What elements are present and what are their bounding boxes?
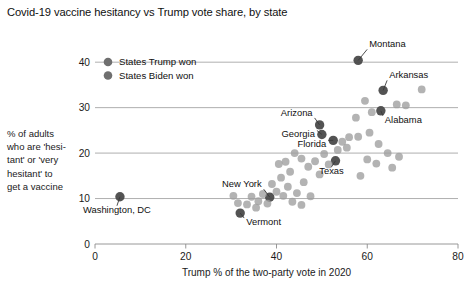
x-axis-title: Trump % of the two-party vote in 2020 — [182, 267, 352, 278]
data-point — [418, 86, 426, 94]
data-point — [345, 133, 353, 141]
legend-dot-biden-won — [104, 71, 113, 80]
y-tick-label: 20 — [79, 148, 91, 159]
legend-label-biden-won: States Biden won — [119, 70, 194, 81]
data-point — [361, 97, 369, 105]
point-label: Arkansas — [389, 69, 428, 80]
y-tick-label: 40 — [79, 57, 91, 68]
data-point — [363, 156, 371, 164]
data-point — [288, 198, 296, 206]
point-label: Texas — [319, 165, 344, 176]
point-label: Montana — [369, 38, 406, 49]
data-point — [368, 108, 376, 116]
data-point — [393, 101, 401, 109]
y-axis-title-line: hesitant' to — [7, 168, 53, 179]
data-point — [343, 144, 351, 152]
data-point — [277, 174, 285, 182]
data-point — [273, 188, 281, 196]
data-point — [384, 149, 392, 157]
point-label: Arizona — [281, 107, 314, 118]
legend-label-trump-won: States Trump won — [119, 56, 196, 67]
y-tick-label: 30 — [79, 102, 91, 113]
data-point — [298, 201, 306, 209]
data-point — [293, 189, 301, 197]
data-point — [264, 200, 272, 208]
scatter-plot-svg: 020406080 010203040 % of adultswho are '… — [0, 0, 467, 288]
x-tick-label: 80 — [452, 251, 464, 262]
point-label: Washington, DC — [83, 204, 151, 215]
point-label: Georgia — [282, 128, 316, 139]
x-tick-label: 60 — [362, 251, 374, 262]
legend-dot-trump-won — [104, 58, 113, 67]
data-point — [298, 155, 306, 163]
data-point — [402, 101, 410, 109]
data-point — [372, 160, 380, 168]
data-point — [354, 133, 362, 141]
point-label: New York — [222, 178, 262, 189]
data-point — [279, 192, 287, 200]
y-axis-title-group: % of adultswho are 'hesi-tant' or 'veryh… — [6, 128, 66, 192]
data-point — [268, 180, 276, 188]
data-point — [375, 140, 383, 148]
data-point — [243, 201, 251, 209]
data-point — [352, 114, 360, 122]
point-label: Florida — [298, 138, 327, 149]
data-point — [282, 158, 290, 166]
x-axis-title-group: Trump % of the two-party vote in 2020 — [182, 267, 352, 278]
plot-area: 020406080 010203040 % of adultswho are '… — [0, 0, 467, 288]
y-tick-labels-group: 010203040 — [79, 57, 91, 250]
data-point — [320, 150, 328, 158]
y-axis-title-line: % of adults — [7, 128, 54, 139]
data-point — [395, 153, 403, 161]
data-point — [300, 178, 308, 186]
x-axis-group: 020406080 — [92, 244, 464, 262]
y-axis-title-line: get a vaccine — [7, 181, 63, 192]
y-tick-label: 10 — [79, 193, 91, 204]
data-point — [334, 146, 342, 154]
data-point — [286, 168, 294, 176]
data-point — [357, 172, 365, 180]
x-tick-label: 20 — [180, 251, 192, 262]
point-label: Alabama — [385, 114, 423, 125]
data-point — [248, 193, 256, 201]
data-point — [311, 157, 319, 165]
data-point — [284, 183, 292, 191]
data-point — [307, 192, 315, 200]
data-point — [304, 163, 312, 171]
data-point-arkansas — [378, 86, 387, 95]
data-point — [275, 160, 283, 168]
y-axis-title-line: tant' or 'very — [7, 154, 58, 165]
x-tick-label: 0 — [92, 251, 98, 262]
y-tick-label: 0 — [84, 239, 90, 250]
data-point — [252, 204, 260, 212]
point-label: Vermont — [246, 216, 281, 227]
legend-group: States Trump wonStates Biden won — [104, 56, 197, 81]
chart-root: Covid-19 vaccine hesitancy vs Trump vote… — [0, 0, 467, 288]
data-point — [366, 129, 374, 137]
x-tick-label: 40 — [271, 251, 283, 262]
data-point — [229, 192, 237, 200]
label-leader-line — [358, 49, 367, 60]
data-point — [291, 149, 299, 157]
y-axis-title-line: who are 'hesi- — [6, 141, 66, 152]
data-point — [388, 164, 396, 172]
data-point — [234, 199, 242, 207]
